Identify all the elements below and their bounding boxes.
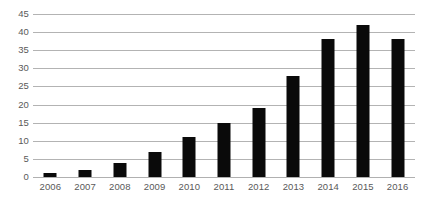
- x-tick-label: 2010: [178, 182, 200, 192]
- y-tick-label: 15: [18, 118, 29, 128]
- x-tick-label: 2016: [387, 182, 409, 192]
- bar[interactable]: [391, 39, 404, 177]
- bar-series: [33, 14, 415, 177]
- y-tick-label: 35: [18, 45, 29, 55]
- gridline-0: [33, 177, 415, 178]
- x-tick-label: 2007: [74, 182, 96, 192]
- y-tick-label: 0: [24, 172, 29, 182]
- bar[interactable]: [148, 152, 161, 177]
- bar[interactable]: [252, 108, 265, 177]
- x-tick-label: 2012: [248, 182, 270, 192]
- x-axis: 2006200720082009201020112012201320142015…: [33, 180, 415, 200]
- y-tick-label: 25: [18, 82, 29, 92]
- y-tick-label: 40: [18, 27, 29, 37]
- bar[interactable]: [287, 76, 300, 177]
- x-tick-label: 2014: [317, 182, 339, 192]
- y-tick-label: 10: [18, 136, 29, 146]
- bar[interactable]: [44, 173, 57, 177]
- y-tick-label: 20: [18, 100, 29, 110]
- bar[interactable]: [79, 170, 92, 177]
- y-tick-label: 5: [24, 154, 29, 164]
- bar[interactable]: [356, 25, 369, 177]
- bar-chart-figure: 051015202530354045 200620072008200920102…: [0, 0, 425, 206]
- bar[interactable]: [322, 39, 335, 177]
- x-tick-label: 2011: [214, 182, 235, 192]
- bar[interactable]: [218, 123, 231, 177]
- x-tick-label: 2015: [352, 182, 374, 192]
- y-tick-label: 45: [18, 9, 29, 19]
- y-tick-label: 30: [18, 64, 29, 74]
- x-tick-label: 2008: [109, 182, 131, 192]
- x-tick-label: 2013: [283, 182, 305, 192]
- x-tick-label: 2009: [144, 182, 166, 192]
- bar[interactable]: [113, 163, 126, 177]
- y-axis: 051015202530354045: [0, 14, 29, 177]
- bar[interactable]: [183, 137, 196, 177]
- x-tick-label: 2006: [40, 182, 62, 192]
